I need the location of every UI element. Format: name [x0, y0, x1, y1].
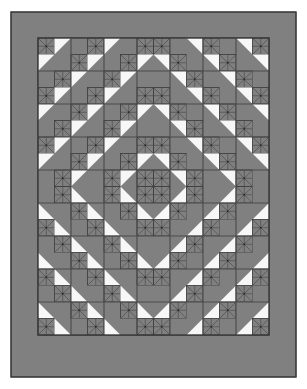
hst-unit	[137, 104, 154, 121]
hst-unit	[121, 286, 138, 303]
pinwheel-unit	[220, 55, 237, 72]
solid-dark-unit	[137, 71, 154, 88]
hst-unit	[137, 253, 154, 270]
pinwheel-unit	[71, 55, 88, 72]
solid-dark-unit	[88, 170, 105, 187]
solid-dark-unit	[154, 236, 171, 253]
hst-unit	[236, 319, 253, 336]
hst-unit	[55, 319, 72, 336]
hst-unit	[71, 121, 88, 138]
pinwheel-unit	[104, 121, 121, 138]
hst-unit	[253, 104, 270, 121]
pinwheel-unit	[154, 220, 171, 237]
hst-unit	[71, 286, 88, 303]
pinwheel-unit	[88, 319, 105, 336]
pinwheel-unit	[187, 286, 204, 303]
pinwheel-unit	[104, 170, 121, 187]
pinwheel-unit	[236, 286, 253, 303]
hst-unit	[187, 137, 204, 154]
solid-dark-unit	[187, 55, 204, 72]
hst-unit	[253, 55, 270, 72]
hst-unit	[187, 38, 204, 55]
pinwheel-unit	[137, 269, 154, 286]
hst-unit	[187, 220, 204, 237]
hst-unit	[154, 55, 171, 72]
pinwheel-unit	[203, 88, 220, 105]
pinwheel-unit	[104, 187, 121, 204]
pinwheel-unit	[38, 220, 55, 237]
solid-dark-unit	[104, 203, 121, 220]
solid-dark-unit	[187, 203, 204, 220]
solid-dark-unit	[88, 71, 105, 88]
hst-unit	[121, 170, 138, 187]
pinwheel-unit	[121, 154, 138, 171]
pinwheel-unit	[121, 302, 138, 319]
solid-dark-unit	[88, 236, 105, 253]
solid-dark-unit	[137, 286, 154, 303]
pinwheel-unit	[88, 38, 105, 55]
pinwheel-unit	[170, 302, 187, 319]
hst-unit	[220, 236, 237, 253]
solid-dark-unit	[38, 286, 55, 303]
pinwheel-unit	[220, 203, 237, 220]
hst-unit	[88, 104, 105, 121]
hst-unit	[253, 302, 270, 319]
pinwheel-unit	[137, 38, 154, 55]
solid-dark-unit	[220, 220, 237, 237]
hst-unit	[187, 88, 204, 105]
pinwheel-unit	[38, 137, 55, 154]
hst-unit	[38, 154, 55, 171]
solid-dark-unit	[121, 137, 138, 154]
hst-unit	[55, 220, 72, 237]
solid-dark-unit	[88, 286, 105, 303]
pinwheel-unit	[154, 137, 171, 154]
pinwheel-unit	[88, 137, 105, 154]
pinwheel-unit	[121, 104, 138, 121]
solid-dark-unit	[104, 302, 121, 319]
solid-dark-unit	[220, 38, 237, 55]
solid-dark-unit	[137, 121, 154, 138]
hst-unit	[236, 38, 253, 55]
pinwheel-unit	[253, 220, 270, 237]
solid-dark-unit	[236, 203, 253, 220]
hst-unit	[187, 319, 204, 336]
hst-unit	[154, 104, 171, 121]
solid-dark-unit	[104, 253, 121, 270]
pinwheel-unit	[104, 286, 121, 303]
pinwheel-unit	[88, 220, 105, 237]
hst-unit	[104, 88, 121, 105]
quilt-pattern-figure	[0, 0, 307, 389]
hst-unit	[187, 269, 204, 286]
solid-dark-unit	[121, 88, 138, 105]
solid-dark-unit	[187, 104, 204, 121]
solid-dark-unit	[55, 104, 72, 121]
hst-unit	[170, 121, 187, 138]
hst-unit	[154, 154, 171, 171]
pinwheel-unit	[236, 71, 253, 88]
hst-unit	[220, 286, 237, 303]
pinwheel-unit	[137, 187, 154, 204]
pinwheel-unit	[170, 203, 187, 220]
hst-unit	[88, 253, 105, 270]
solid-dark-unit	[104, 154, 121, 171]
solid-dark-unit	[170, 38, 187, 55]
hst-unit	[203, 253, 220, 270]
solid-dark-unit	[236, 55, 253, 72]
hst-unit	[203, 302, 220, 319]
pinwheel-unit	[71, 302, 88, 319]
pinwheel-unit	[71, 104, 88, 121]
solid-dark-unit	[38, 187, 55, 204]
pinwheel-unit	[137, 137, 154, 154]
solid-dark-unit	[104, 55, 121, 72]
solid-dark-unit	[253, 71, 270, 88]
solid-dark-unit	[220, 269, 237, 286]
pinwheel-unit	[104, 236, 121, 253]
hst-unit	[170, 286, 187, 303]
solid-dark-unit	[88, 187, 105, 204]
solid-dark-unit	[170, 137, 187, 154]
hst-unit	[121, 236, 138, 253]
pinwheel-unit	[104, 71, 121, 88]
pinwheel-unit	[236, 170, 253, 187]
solid-dark-unit	[203, 236, 220, 253]
hst-unit	[104, 269, 121, 286]
